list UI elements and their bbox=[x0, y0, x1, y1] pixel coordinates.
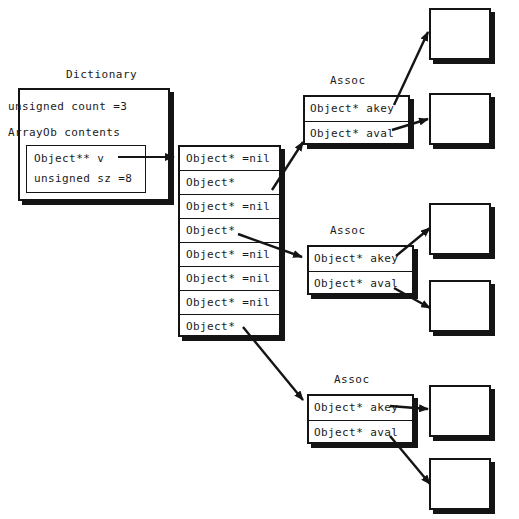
array-cell-0-label: Object* =nil bbox=[186, 152, 270, 165]
assoc-1-aval-label: Object* aval bbox=[314, 277, 398, 290]
dictionary-count-field: unsigned count =3 bbox=[8, 100, 127, 113]
dictionary-title: Dictionary bbox=[66, 68, 137, 81]
array-cell-4: Object* =nil bbox=[180, 243, 283, 267]
object-box-2 bbox=[429, 203, 491, 255]
assoc-0-akey-label: Object* akey bbox=[310, 102, 394, 115]
assoc-0-title: Assoc bbox=[330, 74, 366, 87]
assoc-1-box: Object* akey Object* aval bbox=[307, 245, 414, 295]
array-cell-1: Object* bbox=[180, 171, 283, 195]
array-cell-4-label: Object* =nil bbox=[186, 248, 270, 261]
dictionary-contents-field: ArrayOb contents bbox=[8, 126, 120, 139]
array-cell-3-label: Object* bbox=[186, 224, 235, 237]
object-box-5 bbox=[429, 458, 491, 510]
array-cell-3: Object* bbox=[180, 219, 283, 243]
diagram-canvas: Dictionary unsigned count =3 ArrayOb con… bbox=[0, 0, 519, 519]
assoc-0-aval-label: Object* aval bbox=[310, 127, 394, 140]
assoc-0-aval-row: Object* aval bbox=[305, 122, 412, 147]
assoc-1-aval-row: Object* aval bbox=[309, 272, 416, 297]
array-cell-6-label: Object* =nil bbox=[186, 296, 270, 309]
assoc-2-aval-label: Object* aval bbox=[314, 426, 398, 439]
assoc-1-title: Assoc bbox=[330, 224, 366, 237]
assoc-0-box: Object* akey Object* aval bbox=[303, 95, 410, 145]
assoc-0-akey-row: Object* akey bbox=[305, 97, 412, 122]
array-cell-1-label: Object* bbox=[186, 176, 235, 189]
assoc-2-aval-row: Object* aval bbox=[309, 421, 416, 446]
arrayob-v-field: Object** v bbox=[34, 152, 104, 165]
object-pointer-array: Object* =nil Object* Object* =nil Object… bbox=[178, 145, 281, 337]
object-box-3 bbox=[429, 280, 491, 332]
assoc-2-akey-label: Object* akey bbox=[314, 401, 398, 414]
array-cell-2: Object* =nil bbox=[180, 195, 283, 219]
object-box-1 bbox=[429, 93, 491, 145]
object-box-0 bbox=[429, 8, 491, 60]
assoc-2-title: Assoc bbox=[334, 373, 370, 386]
assoc-2-box: Object* akey Object* aval bbox=[307, 394, 414, 444]
assoc-1-akey-row: Object* akey bbox=[309, 247, 416, 272]
array-cell-7: Object* bbox=[180, 315, 283, 339]
assoc-1-akey-label: Object* akey bbox=[314, 252, 398, 265]
array-cell-7-label: Object* bbox=[186, 320, 235, 333]
assoc-2-akey-row: Object* akey bbox=[309, 396, 416, 421]
array-cell-2-label: Object* =nil bbox=[186, 200, 270, 213]
arrayob-sz-field: unsigned sz =8 bbox=[34, 172, 132, 185]
array-cell-6: Object* =nil bbox=[180, 291, 283, 315]
array-cell-5: Object* =nil bbox=[180, 267, 283, 291]
object-box-4 bbox=[429, 385, 491, 437]
array-cell-0: Object* =nil bbox=[180, 147, 283, 171]
array-cell-5-label: Object* =nil bbox=[186, 272, 270, 285]
